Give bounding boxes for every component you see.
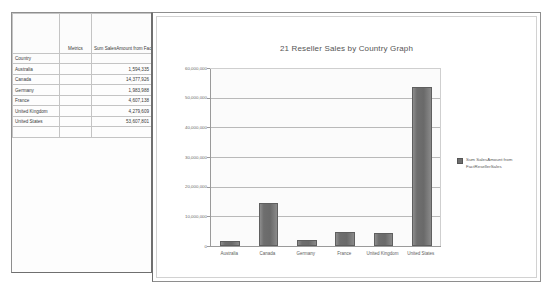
chart-panel: 21 Reseller Sales by Country Graph 010,0… bbox=[152, 12, 541, 282]
table-filler-row bbox=[13, 127, 152, 138]
cell-value: 1,594,335 bbox=[92, 64, 152, 75]
legend-swatch-icon bbox=[457, 158, 463, 164]
chart-title: 21 Reseller Sales by Country Graph bbox=[157, 44, 536, 53]
cell-metrics bbox=[60, 95, 92, 106]
bar-canada bbox=[259, 203, 279, 246]
gridline bbox=[211, 127, 441, 128]
bar-australia bbox=[220, 241, 240, 246]
cell-country: Germany bbox=[13, 85, 60, 96]
filler-cell bbox=[13, 127, 60, 138]
row-group-header-filler-2 bbox=[92, 54, 152, 64]
chart-legend: Sum SalesAmount from FactResellerSales bbox=[457, 157, 535, 170]
cell-country: Canada bbox=[13, 74, 60, 85]
x-axis-tick-label: Germany bbox=[287, 251, 325, 256]
x-axis-tick-label: Australia bbox=[210, 251, 248, 256]
y-axis-tick-label: 20,000,000 bbox=[159, 184, 207, 189]
cell-value: 53,607,801 bbox=[92, 116, 152, 127]
cell-value: 4,279,609 bbox=[92, 106, 152, 117]
matrix-table-panel: Metrics Sum SalesAmount from FactReselle… bbox=[11, 12, 152, 273]
report-canvas: Metrics Sum SalesAmount from FactReselle… bbox=[0, 0, 552, 293]
gridline bbox=[211, 187, 441, 188]
table-row: Germany 1,983,988 bbox=[13, 85, 152, 96]
table-row: United States 53,607,801 bbox=[13, 116, 152, 127]
gridline bbox=[211, 68, 441, 69]
cell-metrics bbox=[60, 74, 92, 85]
plot-area bbox=[210, 68, 441, 247]
gridline bbox=[211, 98, 441, 99]
gridline bbox=[211, 216, 441, 217]
cell-metrics bbox=[60, 106, 92, 117]
y-axis-tick-label: 40,000,000 bbox=[159, 125, 207, 130]
cell-metrics bbox=[60, 85, 92, 96]
cell-value: 4,607,138 bbox=[92, 95, 152, 106]
cell-value: 14,377,926 bbox=[92, 74, 152, 85]
table-row: France 4,607,138 bbox=[13, 95, 152, 106]
y-axis-tick-label: 60,000,000 bbox=[159, 66, 207, 71]
bar-united-kingdom bbox=[374, 233, 394, 246]
row-group-header-filler-1 bbox=[60, 54, 92, 64]
bar-germany bbox=[297, 240, 317, 246]
matrix-header-row: Metrics Sum SalesAmount from FactReselle… bbox=[13, 14, 152, 54]
y-axis-tick-label: 50,000,000 bbox=[159, 95, 207, 100]
corner-cell bbox=[13, 14, 60, 54]
y-axis-tick-label: 10,000,000 bbox=[159, 214, 207, 219]
cell-country: United States bbox=[13, 116, 60, 127]
x-axis-tick-label: France bbox=[325, 251, 363, 256]
row-group-header-country: Country bbox=[13, 54, 60, 64]
cell-country: Australia bbox=[13, 64, 60, 75]
bar-united-states bbox=[412, 87, 432, 246]
cell-value: 1,983,988 bbox=[92, 85, 152, 96]
cell-metrics bbox=[60, 116, 92, 127]
column-header-measure: Sum SalesAmount from FactResellerSales bbox=[92, 14, 152, 54]
x-axis-tick-label: United States bbox=[402, 251, 440, 256]
table-row: Canada 14,377,926 bbox=[13, 74, 152, 85]
table-row: Australia 1,594,335 bbox=[13, 64, 152, 75]
filler-cell bbox=[60, 127, 92, 138]
legend-label: Sum SalesAmount from FactResellerSales bbox=[466, 157, 535, 170]
x-axis-tick-label: United Kingdom bbox=[363, 251, 401, 256]
gridline bbox=[211, 157, 441, 158]
cell-metrics bbox=[60, 64, 92, 75]
x-axis-tick-label: Canada bbox=[248, 251, 286, 256]
y-axis-tick-label: 30,000,000 bbox=[159, 155, 207, 160]
column-header-metrics: Metrics bbox=[60, 14, 92, 54]
row-group-header-row: Country bbox=[13, 54, 152, 64]
table-row: United Kingdom 4,279,609 bbox=[13, 106, 152, 117]
matrix-table: Metrics Sum SalesAmount from FactReselle… bbox=[12, 13, 152, 138]
chart-area: 21 Reseller Sales by Country Graph 010,0… bbox=[156, 16, 537, 278]
cell-country: France bbox=[13, 95, 60, 106]
matrix-body: Metrics Sum SalesAmount from FactReselle… bbox=[13, 14, 152, 138]
cell-country: United Kingdom bbox=[13, 106, 60, 117]
filler-cell bbox=[92, 127, 152, 138]
y-axis-tick-label: 0 bbox=[159, 244, 207, 249]
bar-france bbox=[335, 232, 355, 246]
